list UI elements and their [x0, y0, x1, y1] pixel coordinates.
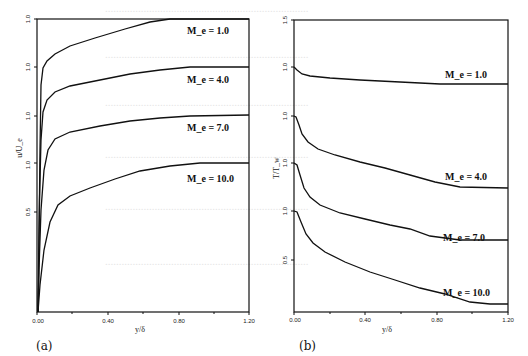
- panel-a-xtick: 0.80: [173, 318, 185, 324]
- panel-a-xlabel: y/δ: [135, 325, 145, 334]
- panel-b-xtick: 0.00: [289, 317, 301, 323]
- panel-a-xtick: 0.40: [102, 318, 114, 324]
- panel-a-ytick: 0.5: [25, 207, 31, 216]
- curve-me-10: [38, 163, 249, 312]
- panel-b-xlabel: y/δ: [382, 325, 392, 334]
- panel-a-label-me-4: M_e = 4.0: [187, 74, 229, 85]
- panel-b-ytick: 1.0: [282, 206, 288, 215]
- panel-b-ytick: 0.5: [282, 255, 288, 264]
- panel-b-ytick: 1.0: [282, 62, 288, 71]
- panel-b-label: (b): [299, 339, 316, 353]
- panel-b-ytick: 1.5: [282, 15, 288, 24]
- panel-a-label-me-7: M_e = 7.0: [187, 122, 229, 133]
- figure: 1.0 1.0 1.0 1.0 0.5 u/U_e 0.00 0.40 0.80…: [0, 0, 528, 356]
- panel-b-xtick: 0.80: [431, 317, 443, 323]
- panel-a-ytick: 1.0: [25, 111, 31, 120]
- curve-me-1: [38, 19, 249, 312]
- panel-a-curves: [38, 19, 249, 312]
- panel-b-ytick: 1.0: [282, 111, 288, 120]
- panel-b-label-me-1: M_e = 1.0: [445, 69, 487, 80]
- curve-me-4: [38, 67, 249, 312]
- panel-a-xtick: 1.20: [243, 318, 255, 324]
- panel-a-label-me-1: M_e = 1.0: [187, 25, 229, 36]
- panel-b: 1.5 1.0 1.0 1.0 1.0 0.5 T/T_w 0.00 0.40 …: [272, 15, 514, 353]
- panel-a-label: (a): [36, 339, 53, 353]
- panel-a-ytick: 1.0: [25, 62, 31, 71]
- panel-b-label-me-4: M_e = 4.0: [445, 171, 487, 182]
- panel-a-xtick: 0.00: [32, 318, 44, 324]
- panel-a-ytick: 1.0: [25, 14, 31, 23]
- curve-me-7: [38, 115, 249, 312]
- panel-b-label-me-7: M_e = 7.0: [443, 232, 485, 243]
- panel-a-ytick: 1.0: [25, 160, 31, 169]
- panel-a-label-me-10: M_e = 10.0: [187, 173, 234, 184]
- panel-b-ylabel: T/T_w: [272, 157, 281, 179]
- panel-a: 1.0 1.0 1.0 1.0 0.5 u/U_e 0.00 0.40 0.80…: [15, 14, 255, 353]
- panel-b-frame: [294, 20, 508, 312]
- panel-b-label-me-10: M_e = 10.0: [443, 287, 490, 298]
- panel-b-ytick: 1.0: [282, 158, 288, 167]
- panel-b-xtick: 0.40: [359, 317, 371, 323]
- panel-a-frame: [37, 19, 249, 312]
- panel-b-xtick: 1.20: [502, 317, 514, 323]
- panel-b-curves: [294, 67, 508, 304]
- panel-a-ylabel: u/U_e: [15, 138, 24, 158]
